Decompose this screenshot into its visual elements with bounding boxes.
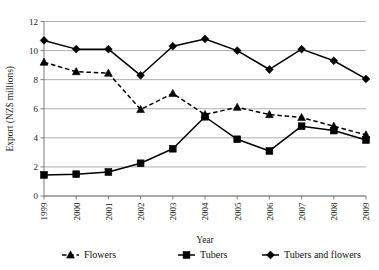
gridlines-group [44,22,366,197]
series-tubers-and-flowers [40,35,370,83]
y-axis-tick-labels: 024681012 [29,17,39,202]
data-point-2008 [330,57,338,65]
legend-item-flowers[interactable]: Flowers [62,249,116,260]
data-point-2001 [105,169,112,176]
chart-legend: FlowersTubersTubers and flowers [62,249,361,260]
line-chart: 024681012 199920002001200220032004200520… [0,0,379,270]
chart-container: 024681012 199920002001200220032004200520… [0,0,379,270]
data-point-2007 [298,45,306,53]
series-line [44,39,366,79]
legend-marker-square [183,252,190,259]
data-point-2008 [330,127,337,134]
series-layer [40,35,370,178]
legend-label: Flowers [84,249,116,260]
data-point-2005 [233,47,241,55]
y-tick-label-8: 8 [34,75,39,85]
series-tubers [41,113,370,178]
data-point-2007 [298,123,305,130]
y-tick-label-0: 0 [34,191,39,201]
x-tick-label-2004: 2004 [200,202,210,221]
x-tick-label-2002: 2002 [136,203,146,221]
series-line [44,62,366,135]
series-line [44,117,366,175]
legend-item-tubers[interactable]: Tubers [178,249,228,260]
x-axis-title: Year [196,235,214,245]
y-tick-label-12: 12 [29,17,38,27]
y-tick-label-10: 10 [29,46,39,56]
legend-label: Tubers [200,249,228,260]
legend-item-tubers-and-flowers[interactable]: Tubers and flowers [262,249,361,260]
series-flowers [40,58,370,138]
x-tick-label-2007: 2007 [297,202,307,221]
data-point-2003 [169,145,176,152]
x-tick-label-2003: 2003 [168,202,178,221]
x-tick-label-2008: 2008 [329,202,339,221]
data-point-2006 [266,148,273,155]
data-point-1999 [40,58,48,65]
y-tick-label-6: 6 [34,104,39,114]
data-point-2005 [234,136,241,143]
y-tick-label-4: 4 [34,133,39,143]
data-point-1999 [41,172,48,179]
data-point-2006 [266,66,274,74]
data-point-2009 [362,75,370,83]
x-tick-label-2009: 2009 [361,202,371,221]
data-point-2000 [73,171,80,178]
data-point-2005 [233,103,241,110]
legend-label: Tubers and flowers [284,249,361,260]
y-tick-label-2: 2 [34,162,39,172]
data-point-2004 [201,35,209,43]
legend-marker-diamond [267,251,275,259]
x-axis-tick-labels: 1999200020012002200320042005200620072008… [39,202,371,221]
x-tick-label-2001: 2001 [104,203,114,221]
x-tick-label-1999: 1999 [39,202,49,221]
data-point-2003 [169,89,177,96]
data-point-2004 [202,113,209,120]
data-point-2001 [105,69,113,76]
data-point-2009 [363,137,370,144]
data-point-2007 [298,113,306,120]
x-tick-label-2005: 2005 [233,202,243,221]
data-point-1999 [40,37,48,45]
y-axis-title: Export (NZ$ millions) [5,66,16,152]
data-point-2002 [137,160,144,167]
data-point-2000 [72,45,80,53]
x-tick-label-2000: 2000 [72,202,82,221]
x-tick-label-2006: 2006 [265,202,275,221]
